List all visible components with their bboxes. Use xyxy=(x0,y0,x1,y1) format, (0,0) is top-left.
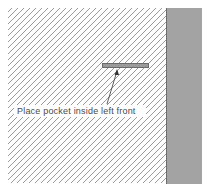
instruction-label: Place pocket inside left front xyxy=(17,105,136,117)
pointer-arrow-icon xyxy=(0,0,208,195)
